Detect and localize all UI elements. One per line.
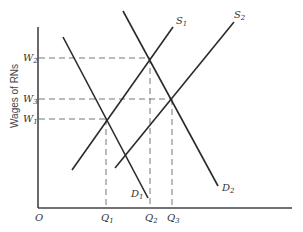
demand-curve-d2 [123, 11, 218, 186]
w2-label: W2 [23, 52, 38, 65]
demand-curve-d1 [63, 37, 148, 198]
supply-curve-s2 [115, 22, 234, 168]
origin-label: O [35, 212, 43, 223]
supply-demand-diagram: S1 S2 D1 D2 W2 W3 W1 O Q1 Q2 Q3 Wages of… [0, 0, 303, 232]
q3-label: Q3 [167, 212, 180, 225]
w1-label: W1 [23, 113, 38, 126]
d2-label: D2 [221, 182, 235, 195]
s2-label: S2 [234, 9, 246, 22]
q1-label: Q1 [101, 212, 114, 225]
s1-label: S1 [176, 15, 187, 28]
q2-label: Q2 [145, 212, 158, 225]
d1-label: D1 [130, 188, 144, 201]
w3-label: W3 [23, 93, 38, 106]
y-axis-title: Wages of RNs [9, 64, 20, 128]
